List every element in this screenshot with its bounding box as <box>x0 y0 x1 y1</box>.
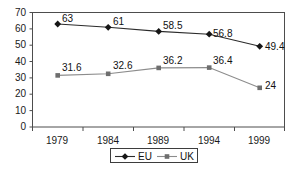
data-label-eu-1999: 49.4 <box>265 42 284 52</box>
legend-entry-eu[interactable]: EU <box>115 150 152 163</box>
data-label-uk-1979: 31.6 <box>62 63 81 73</box>
data-label-eu-1989: 58.5 <box>163 21 182 31</box>
legend-label-uk: UK <box>180 152 194 162</box>
y-tick-label-70: 70 <box>4 8 26 18</box>
x-tick-label-1984: 1984 <box>88 136 128 146</box>
y-tick-label-0: 0 <box>4 122 26 132</box>
y-tick-label-30: 30 <box>4 73 26 83</box>
data-label-uk-1984: 32.6 <box>113 61 132 71</box>
x-tick-label-1994: 1994 <box>189 136 229 146</box>
y-tick-label-50: 50 <box>4 40 26 50</box>
data-label-uk-1999: 24 <box>265 81 276 91</box>
x-tick-label-1989: 1989 <box>138 136 178 146</box>
chart-legend: EU UK <box>110 148 198 163</box>
legend-marker-uk-square-icon <box>157 151 177 162</box>
x-tick-label-1979: 1979 <box>37 136 77 146</box>
data-label-eu-1994: 56.8 <box>213 29 232 39</box>
data-label-eu-1984: 61 <box>113 17 124 27</box>
legend-marker-eu-diamond-icon <box>115 151 135 162</box>
y-tick-label-40: 40 <box>4 57 26 67</box>
data-label-uk-1994: 36.4 <box>213 56 232 66</box>
line-chart: 70 60 50 40 30 20 10 0 1979 1984 1989 19… <box>0 0 303 170</box>
y-tick-label-10: 10 <box>4 106 26 116</box>
legend-label-eu: EU <box>138 152 152 162</box>
data-label-uk-1989: 36.2 <box>163 56 182 66</box>
legend-entry-uk[interactable]: UK <box>157 150 194 163</box>
x-tick-label-1999: 1999 <box>239 136 279 146</box>
y-tick-label-60: 60 <box>4 24 26 34</box>
data-label-eu-1979: 63 <box>62 14 73 24</box>
x-axis-ticks <box>33 127 285 131</box>
y-tick-label-20: 20 <box>4 89 26 99</box>
